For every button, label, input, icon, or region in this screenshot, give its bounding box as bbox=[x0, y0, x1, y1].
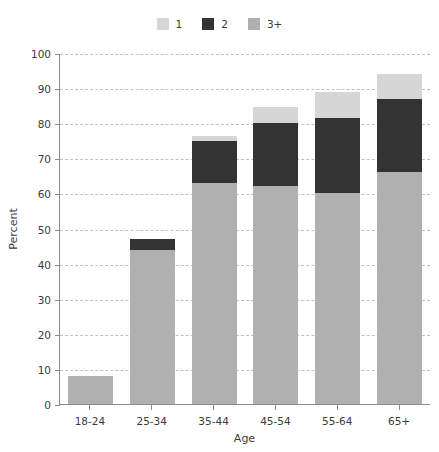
bar-segment-3plus[interactable] bbox=[377, 172, 422, 404]
bar-column[interactable] bbox=[192, 54, 237, 404]
x-axis-tick-label: 35-44 bbox=[198, 415, 229, 427]
bar-segment-1[interactable] bbox=[253, 107, 298, 123]
legend-swatch-icon bbox=[248, 18, 260, 30]
bar-segment-2[interactable] bbox=[192, 141, 237, 183]
x-axis-tick: 45-54 bbox=[253, 405, 298, 427]
chart-legend: 123+ bbox=[0, 18, 439, 30]
y-axis-tick-label: 100 bbox=[31, 48, 51, 60]
bar-column[interactable] bbox=[68, 54, 113, 404]
y-axis-tick-label: 70 bbox=[38, 153, 51, 165]
legend-label: 2 bbox=[221, 19, 228, 30]
bar-segment-3plus[interactable] bbox=[253, 186, 298, 404]
legend-entry-1: 1 bbox=[157, 18, 183, 30]
y-axis-tick-label: 50 bbox=[38, 224, 51, 236]
bar-column[interactable] bbox=[377, 54, 422, 404]
legend-swatch-icon bbox=[157, 18, 169, 30]
y-axis-tick-label: 40 bbox=[38, 259, 51, 271]
legend-entry-3plus: 3+ bbox=[248, 18, 282, 30]
bar-group bbox=[60, 54, 430, 404]
bar-column[interactable] bbox=[253, 54, 298, 404]
x-axis-tick: 25-34 bbox=[129, 405, 174, 427]
x-axis-tick-mark bbox=[275, 405, 276, 410]
y-axis-title: Percent bbox=[7, 208, 20, 249]
bar-segment-1[interactable] bbox=[315, 92, 360, 118]
x-axis-ticks: 18-2425-3435-4445-5455-6465+ bbox=[59, 405, 430, 427]
x-axis-tick-mark bbox=[337, 405, 338, 410]
y-axis-tick-label: 90 bbox=[38, 83, 51, 95]
x-axis-tick-mark bbox=[89, 405, 90, 410]
bar-column[interactable] bbox=[315, 54, 360, 404]
x-axis-tick-label: 25-34 bbox=[136, 415, 167, 427]
y-axis-tick-label: 10 bbox=[38, 364, 51, 376]
x-axis-tick-mark bbox=[399, 405, 400, 410]
x-axis-title: Age bbox=[59, 432, 430, 445]
bar-segment-3plus[interactable] bbox=[192, 183, 237, 404]
bar-segment-2[interactable] bbox=[377, 99, 422, 173]
y-axis-tick-label: 0 bbox=[44, 399, 51, 411]
y-axis-tick-label: 60 bbox=[38, 188, 51, 200]
bar-segment-2[interactable] bbox=[130, 239, 175, 250]
x-axis-tick-mark bbox=[151, 405, 152, 410]
bar-segment-2[interactable] bbox=[315, 118, 360, 193]
bar-segment-3plus[interactable] bbox=[130, 250, 175, 404]
bar-segment-2[interactable] bbox=[253, 123, 298, 186]
x-axis-tick-label: 65+ bbox=[388, 415, 410, 427]
y-axis-tick-label: 20 bbox=[38, 329, 51, 341]
x-axis-tick: 18-24 bbox=[67, 405, 112, 427]
legend-swatch-icon bbox=[202, 18, 214, 30]
legend-label: 1 bbox=[176, 19, 183, 30]
x-axis-tick-label: 18-24 bbox=[75, 415, 106, 427]
legend-label: 3+ bbox=[267, 19, 282, 30]
x-axis-tick: 55-64 bbox=[315, 405, 360, 427]
bar-column[interactable] bbox=[130, 54, 175, 404]
x-axis-tick-mark bbox=[213, 405, 214, 410]
y-axis-tick-label: 30 bbox=[38, 294, 51, 306]
x-axis-tick: 65+ bbox=[377, 405, 422, 427]
x-axis-tick-label: 55-64 bbox=[322, 415, 353, 427]
y-axis-tick-label: 80 bbox=[38, 118, 51, 130]
legend-entry-2: 2 bbox=[202, 18, 228, 30]
stacked-bar-chart: 123+ 0102030405060708090100 18-2425-3435… bbox=[0, 0, 439, 452]
bar-segment-3plus[interactable] bbox=[315, 193, 360, 404]
bar-segment-3plus[interactable] bbox=[68, 376, 113, 404]
bar-segment-1[interactable] bbox=[377, 74, 422, 99]
plot-area: 0102030405060708090100 bbox=[59, 54, 430, 405]
x-axis-tick-label: 45-54 bbox=[260, 415, 291, 427]
x-axis-tick: 35-44 bbox=[191, 405, 236, 427]
